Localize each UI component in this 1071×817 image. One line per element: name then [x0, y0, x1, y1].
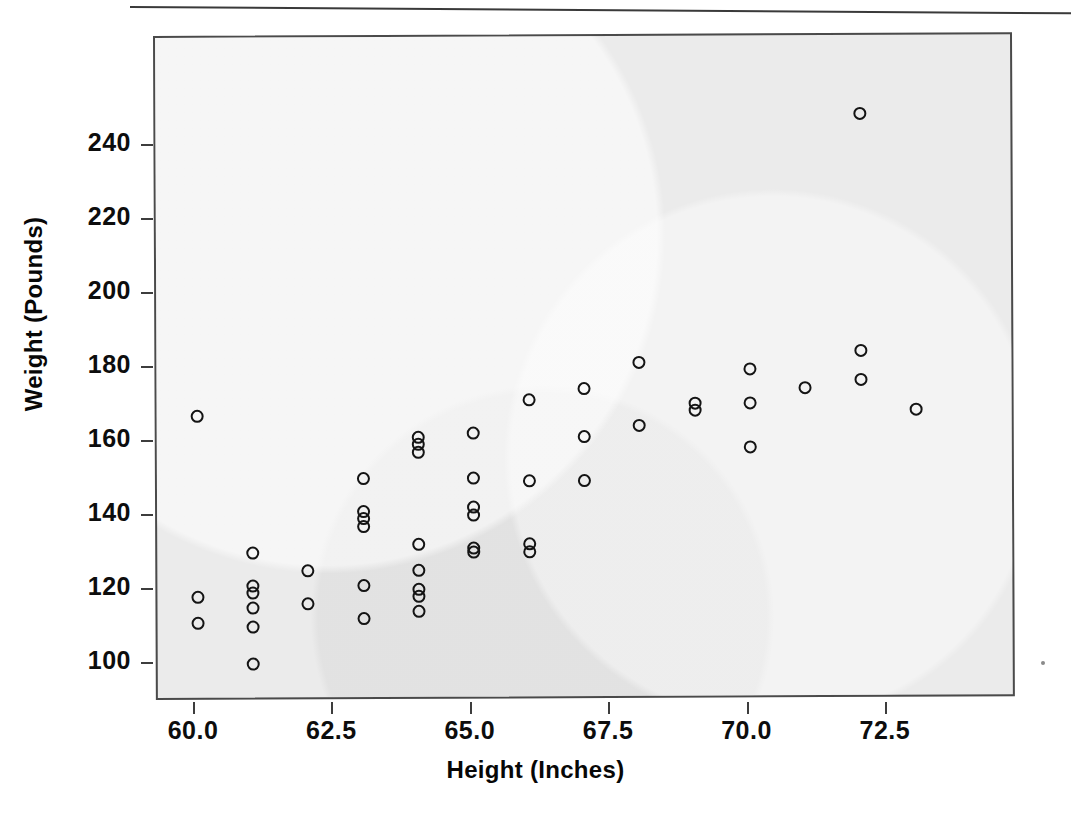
- x-tick-label: 62.5: [306, 716, 357, 745]
- data-point: [412, 590, 425, 603]
- data-point: [523, 475, 536, 488]
- data-point: [246, 620, 259, 633]
- data-point: [523, 545, 536, 558]
- data-point: [467, 508, 480, 521]
- data-point: [191, 617, 204, 630]
- data-point: [633, 419, 646, 432]
- x-tick-mark: [608, 702, 610, 714]
- y-tick-mark: [141, 662, 153, 664]
- data-point: [356, 472, 369, 485]
- x-tick-label: 70.0: [721, 716, 772, 745]
- y-tick-label: 100: [0, 646, 131, 675]
- x-tick-label: 67.5: [583, 716, 634, 745]
- data-point: [246, 587, 259, 600]
- data-point: [412, 538, 425, 551]
- data-point: [246, 602, 259, 615]
- plot-area: [153, 32, 1015, 700]
- data-point: [357, 612, 370, 625]
- data-point: [467, 471, 480, 484]
- data-point: [854, 344, 867, 357]
- data-point: [744, 396, 757, 409]
- x-tick-mark: [193, 702, 195, 714]
- scan-speck: [1041, 661, 1045, 665]
- y-tick-label: 120: [0, 572, 131, 601]
- y-tick-mark: [141, 218, 153, 220]
- data-point: [467, 427, 480, 440]
- data-point: [910, 403, 923, 416]
- data-point: [412, 564, 425, 577]
- data-point: [357, 579, 370, 592]
- x-tick-label: 65.0: [444, 716, 495, 745]
- data-point: [799, 381, 812, 394]
- data-point: [744, 440, 757, 453]
- x-tick-mark: [470, 702, 472, 714]
- data-point: [577, 382, 590, 395]
- y-tick-mark: [141, 366, 153, 368]
- scatter-plot-figure: 100120140160180200220240 60.062.565.067.…: [0, 0, 1071, 817]
- data-point: [302, 598, 315, 611]
- x-tick-label: 72.5: [860, 716, 911, 745]
- data-point: [301, 564, 314, 577]
- y-tick-mark: [141, 144, 153, 146]
- y-tick-mark: [141, 514, 153, 516]
- y-tick-mark: [141, 588, 153, 590]
- data-point: [412, 445, 425, 458]
- y-axis-title: Weight (Pounds): [20, 114, 48, 514]
- data-point: [412, 605, 425, 618]
- x-tick-mark: [331, 702, 333, 714]
- data-point: [578, 474, 591, 487]
- data-point: [853, 107, 866, 120]
- x-tick-mark: [885, 702, 887, 714]
- data-point: [357, 520, 370, 533]
- data-point: [522, 393, 535, 406]
- data-point: [688, 404, 701, 417]
- data-points-layer: [155, 34, 1010, 38]
- y-tick-mark: [141, 292, 153, 294]
- x-axis-title: Height (Inches): [0, 756, 1071, 784]
- y-tick-mark: [141, 440, 153, 442]
- x-tick-mark: [747, 702, 749, 714]
- data-point: [247, 657, 260, 670]
- data-point: [578, 430, 591, 443]
- plot-background-texture: [155, 34, 1013, 698]
- data-point: [246, 546, 259, 559]
- x-tick-label: 60.0: [168, 716, 219, 745]
- data-point: [633, 356, 646, 369]
- data-point: [190, 409, 203, 422]
- data-point: [743, 363, 756, 376]
- data-point: [191, 591, 204, 604]
- data-point: [467, 545, 480, 558]
- data-point: [854, 373, 867, 386]
